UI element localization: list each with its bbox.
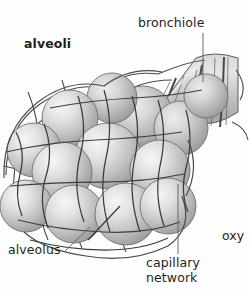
alveoli-diagram-figure: alveoli bronchiole alveolus capillarynet… <box>0 0 249 290</box>
alveolus-sphere <box>45 185 103 243</box>
alveolus-sphere <box>184 74 228 118</box>
alveolus-sphere <box>0 180 52 232</box>
label-oxygen-clipped: oxy <box>222 229 244 244</box>
label-bronchiole: bronchiole <box>138 16 204 31</box>
label-capillary-network: capillarynetwork <box>146 256 200 286</box>
capillary-label-line-2: network <box>146 270 197 285</box>
label-alveolus: alveolus <box>8 243 61 258</box>
capillary-label-line-1: capillary <box>146 255 200 270</box>
label-alveoli: alveoli <box>24 37 71 52</box>
